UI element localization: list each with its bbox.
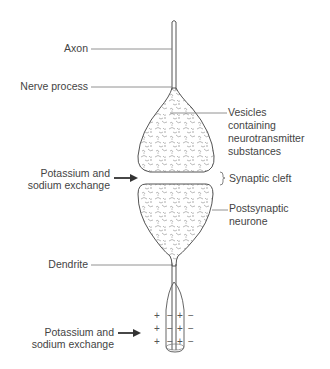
exchange-label-line: Potassium and bbox=[32, 326, 114, 338]
vesicles-label-line: substances bbox=[228, 145, 304, 158]
charge-signs: +−+− +−+− +−+− bbox=[154, 310, 194, 347]
axon-shape bbox=[172, 21, 176, 91]
postsynaptic-neurone-label: Postsynaptic neurone bbox=[229, 202, 289, 228]
svg-text:−: − bbox=[188, 336, 194, 347]
vesicles-label-line: neurotransmitter bbox=[228, 132, 304, 145]
presynaptic-terminal bbox=[138, 88, 214, 172]
exchange-bottom-label: Potassium and sodium exchange bbox=[32, 326, 114, 350]
svg-text:−: − bbox=[167, 310, 173, 321]
synaptic-cleft-brace bbox=[220, 172, 225, 185]
arrow-icon bbox=[118, 329, 141, 337]
svg-text:+: + bbox=[154, 336, 160, 347]
nerve-process-label: Nerve process bbox=[20, 80, 88, 93]
svg-text:+: + bbox=[154, 310, 160, 321]
exchange-label-line: sodium exchange bbox=[28, 179, 110, 191]
svg-text:−: − bbox=[188, 310, 194, 321]
svg-text:−: − bbox=[167, 336, 173, 347]
vesicles-label-line: Vesicles bbox=[228, 106, 304, 119]
exchange-label-line: Potassium and bbox=[28, 167, 110, 179]
synaptic-cleft-label: Synaptic cleft bbox=[229, 172, 291, 185]
exchange-label-line: sodium exchange bbox=[32, 338, 114, 350]
svg-text:−: − bbox=[188, 323, 194, 334]
arrow-icon bbox=[114, 174, 138, 182]
dendrite-label: Dendrite bbox=[48, 258, 88, 271]
postsynaptic-label-line: neurone bbox=[229, 215, 289, 228]
svg-text:+: + bbox=[154, 323, 160, 334]
svg-text:+: + bbox=[177, 323, 183, 334]
postsynaptic-neurone-shape bbox=[138, 184, 213, 266]
axon-label: Axon bbox=[64, 42, 88, 55]
svg-text:−: − bbox=[167, 323, 173, 334]
svg-text:+: + bbox=[177, 310, 183, 321]
postsynaptic-label-line: Postsynaptic bbox=[229, 202, 289, 215]
svg-text:+: + bbox=[177, 336, 183, 347]
exchange-top-label: Potassium and sodium exchange bbox=[28, 167, 110, 191]
vesicles-label-line: containing bbox=[228, 119, 304, 132]
vesicles-label: Vesicles containing neurotransmitter sub… bbox=[228, 106, 304, 158]
